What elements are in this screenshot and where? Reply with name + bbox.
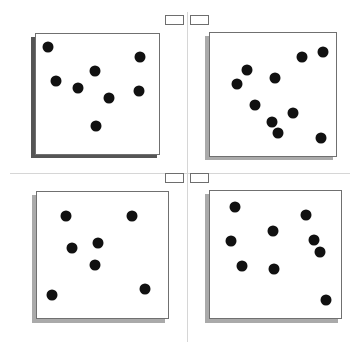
dot bbox=[43, 42, 54, 53]
dot bbox=[140, 284, 151, 295]
dot bbox=[309, 235, 320, 246]
dot bbox=[297, 52, 308, 63]
top-button-left[interactable] bbox=[165, 15, 184, 25]
dot bbox=[104, 93, 115, 104]
dot bbox=[61, 211, 72, 222]
dot bbox=[321, 295, 332, 306]
dot bbox=[90, 260, 101, 271]
vertical-divider bbox=[187, 12, 188, 342]
dot bbox=[127, 211, 138, 222]
dot bbox=[268, 226, 279, 237]
dot bbox=[237, 261, 248, 272]
dot bbox=[73, 83, 84, 94]
dot bbox=[135, 52, 146, 63]
dot bbox=[318, 47, 329, 58]
dot bbox=[91, 121, 102, 132]
dot bbox=[226, 236, 237, 247]
middle-button-left[interactable] bbox=[165, 173, 184, 183]
dot bbox=[269, 264, 280, 275]
top-button-right[interactable] bbox=[190, 15, 209, 25]
dot bbox=[47, 290, 58, 301]
dot bbox=[273, 128, 284, 139]
dot bbox=[67, 243, 78, 254]
dot bbox=[51, 76, 62, 87]
dot bbox=[250, 100, 261, 111]
dot bbox=[288, 108, 299, 119]
dot bbox=[315, 247, 326, 258]
dot bbox=[301, 210, 312, 221]
dot bbox=[242, 65, 253, 76]
dot bbox=[230, 202, 241, 213]
dot bbox=[270, 73, 281, 84]
dot bbox=[316, 133, 327, 144]
dot bbox=[93, 238, 104, 249]
scatter-panel-bottom-left bbox=[36, 191, 169, 319]
middle-button-right[interactable] bbox=[190, 173, 209, 183]
dot bbox=[232, 79, 243, 90]
dot bbox=[267, 117, 278, 128]
dot bbox=[134, 86, 145, 97]
dot bbox=[90, 66, 101, 77]
